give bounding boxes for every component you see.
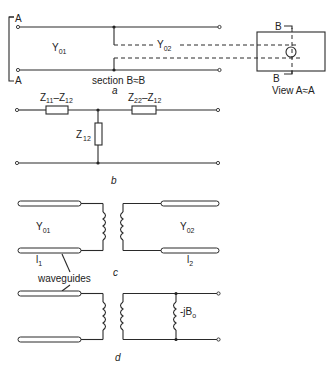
label-l1: l1 — [36, 254, 42, 267]
label-l2: l2 — [187, 254, 193, 267]
label-b-bottom: B — [273, 73, 280, 84]
section-a-bracket — [9, 17, 14, 81]
part-a-junction-diagram: A A Y01 Y02 section B≈B a B B View A≈A — [9, 13, 325, 96]
waveguide-left-bottom — [18, 248, 81, 253]
part-b-t-network: Z11–Z12 Z22–Z12 Z12 b — [15, 92, 219, 186]
caption-b: b — [111, 175, 117, 186]
caption-d: d — [115, 352, 121, 363]
impedance-z11-z12 — [46, 106, 68, 114]
label-y02-c: Y02 — [180, 221, 195, 234]
leader-waveguides-lower — [62, 285, 70, 291]
label-waveguides: waveguides — [37, 273, 91, 284]
impedance-z12-shunt — [95, 123, 102, 145]
waveguide-d-bottom — [18, 337, 81, 342]
label-z12: Z12 — [76, 129, 91, 142]
primary-coil-icon — [103, 212, 106, 240]
label-y01: Y01 — [52, 42, 67, 55]
primary-coil-d-icon — [103, 302, 106, 330]
waveguide-junction-figure: A A Y01 Y02 section B≈B a B B View A≈A — [0, 0, 334, 369]
part-c-transformer-model: Y01 Y02 l1 l2 waveguides c — [18, 201, 219, 291]
part-d-shunt-susceptance-model: -jBo d — [18, 291, 220, 363]
label-view-a-a: View A≈A — [272, 85, 315, 96]
label-section-b-b: section B≈B — [92, 75, 146, 86]
label-z22-z12: Z22–Z12 — [128, 92, 161, 104]
label-y02: Y02 — [157, 39, 172, 52]
leader-waveguides-upper — [62, 254, 70, 272]
label-y01-c: Y01 — [36, 221, 51, 234]
impedance-z22-z12 — [132, 106, 156, 114]
secondary-coil-d-icon — [121, 302, 124, 330]
secondary-coil-icon — [121, 212, 124, 240]
label-b-top: B — [275, 21, 282, 32]
waveguide-d-top — [18, 291, 81, 296]
shunt-inductor-icon — [174, 302, 177, 330]
waveguide-right-bottom — [161, 248, 219, 253]
coupling-hole-icon — [286, 47, 296, 57]
label-jbo: -jBo — [180, 306, 196, 319]
waveguide-left-top — [18, 201, 81, 206]
label-a-bottom: A — [15, 75, 22, 86]
label-a-top: A — [15, 13, 22, 24]
view-a-a-box — [257, 32, 325, 71]
caption-c: c — [113, 267, 118, 278]
caption-a: a — [112, 85, 118, 96]
waveguide-right-top — [161, 201, 219, 206]
label-z11-z12: Z11–Z12 — [40, 92, 73, 104]
